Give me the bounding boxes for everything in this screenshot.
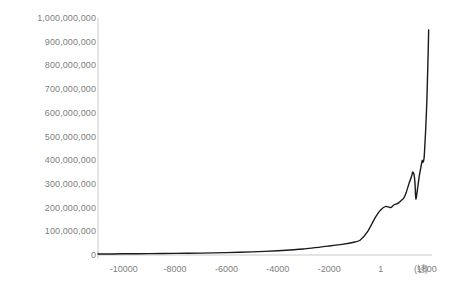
x-axis-tick-label: -8000 xyxy=(164,264,187,275)
population-data-line xyxy=(98,30,429,254)
x-axis-tick-label: 1 xyxy=(378,264,383,275)
chart-plot-area xyxy=(0,0,456,298)
x-axis-tick-label: -2000 xyxy=(318,264,341,275)
x-axis-tick-label: -4000 xyxy=(266,264,289,275)
x-axis-title: (년) xyxy=(414,264,428,275)
x-axis-tick-label: -10000 xyxy=(110,264,138,275)
population-line-chart: 0100,000,000200,000,000300,000,000400,00… xyxy=(0,0,456,298)
x-axis-tick-label: -6000 xyxy=(215,264,238,275)
